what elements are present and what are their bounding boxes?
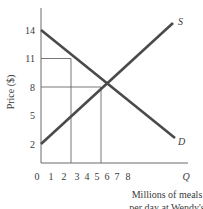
x-axis-end-label: Q <box>182 171 190 182</box>
x-tick-label: 4 <box>85 171 90 182</box>
curve-labels: SD <box>177 16 186 147</box>
reference-lines <box>41 59 101 164</box>
supply-demand-chart: 2581114 012345678 SD Q Price ($) Million… <box>0 0 203 209</box>
demand-curve <box>41 30 175 138</box>
x-tick-label: 6 <box>105 171 110 182</box>
x-axis-title-line-2: per day at Wendy's <box>129 202 203 209</box>
y-tick-label: 11 <box>25 53 35 64</box>
x-tick-label: 7 <box>115 171 120 182</box>
y-tick-label: 5 <box>30 110 35 121</box>
y-tick-label: 8 <box>30 82 35 93</box>
supply-label: S <box>178 16 183 27</box>
x-tick-labels: 012345678 <box>35 171 131 182</box>
x-tick-label: 0 <box>35 171 40 182</box>
x-tick-label: 2 <box>62 171 67 182</box>
x-tick-label: 5 <box>95 171 100 182</box>
x-tick-label: 1 <box>49 171 54 182</box>
demand-label: D <box>177 136 186 147</box>
x-tick-label: 3 <box>75 171 80 182</box>
y-tick-label: 2 <box>30 139 35 150</box>
x-axis-title-line-1: Millions of meals <box>132 189 203 200</box>
y-tick-labels: 2581114 <box>25 25 35 150</box>
curves <box>41 23 175 144</box>
x-tick-label: 8 <box>126 171 131 182</box>
y-axis-title: Price ($) <box>5 75 17 110</box>
y-tick-label: 14 <box>25 25 35 36</box>
